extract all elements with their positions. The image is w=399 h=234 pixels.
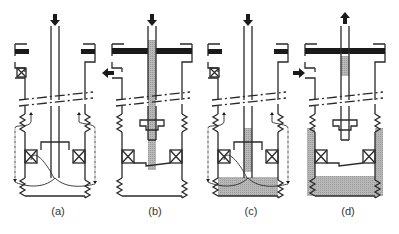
well-panel-d [293,12,385,198]
perforation-upper-right [85,114,90,132]
tubing-lower [341,106,349,140]
arrow-right-icon [293,68,305,78]
packer-cross-icon [25,150,37,163]
packer-seal [327,163,363,166]
perforation-lower-left [20,178,25,196]
casing-left-upper [112,78,122,100]
tubing-fluid [341,56,349,76]
well-bottom [315,196,375,198]
perforation-upper-left [117,114,122,132]
casing-left-upper [15,78,25,100]
wellhead-left [208,44,220,68]
panel-label-d: (d) [333,205,363,217]
packer-cross-icon [315,150,327,163]
packoff-bar-right [274,49,288,54]
arrow-down-icon [50,14,60,26]
perforation-upper-right [278,114,283,132]
casing-left-upper [305,78,315,100]
packer-cross-icon [363,150,375,163]
wellhead-left [112,44,124,68]
well-panel-b [102,14,192,198]
tubing-upper [244,26,252,100]
panel-label-b: (b) [140,205,170,217]
well-bottom [122,196,182,198]
perforation-upper-left [20,114,25,132]
packoff-bar-left [208,49,222,54]
well-diagram-figure: (a) (b) (c) (d) [0,0,399,234]
arrow-down-icon [243,14,253,26]
break-line [212,92,286,106]
break-line [309,92,383,106]
panel-label-c: (c) [236,205,266,217]
well-bottom [25,196,85,198]
packoff-bar-left [15,49,29,54]
well-panel-c [206,14,290,198]
well-panel-a [13,14,97,198]
valve-cross-icon [17,68,26,77]
perforation-lower-left [117,178,122,196]
perforation-lower-right [85,180,90,198]
tubing-fluid [148,40,156,170]
bottom-fluid [315,176,375,196]
packer-cross-icon [266,150,278,163]
packoff-bar-right [81,49,95,54]
tubing-fluid [244,128,252,172]
perforation-upper-left [213,114,218,132]
packer-cross-icon [170,150,182,163]
panel-label-a: (a) [43,205,73,217]
wellhead-left [15,44,27,68]
tubing-upper [51,26,59,100]
packer-cross-icon [218,150,230,163]
packer-cross-icon [73,150,85,163]
arrow-up-icon [340,12,350,24]
casing-left-upper [208,78,218,100]
break-line [19,92,93,106]
packer-cross-icon [122,150,134,163]
casing-lower [315,104,375,180]
well-bottom [218,196,278,198]
perforation-lower-right [182,180,187,198]
packer-mandrel [41,142,69,150]
perforation-lower-right [278,180,283,198]
wellhead-left [305,44,317,68]
arrow-down-icon [147,14,157,26]
arrow-left-icon [102,68,114,78]
diagram-canvas [0,0,399,234]
packoff-bar [305,48,385,54]
tubing-stinger [333,120,357,140]
perforation-upper-right [182,114,187,132]
perforation-lower-left [213,178,218,196]
valve-cross-icon [210,68,219,77]
